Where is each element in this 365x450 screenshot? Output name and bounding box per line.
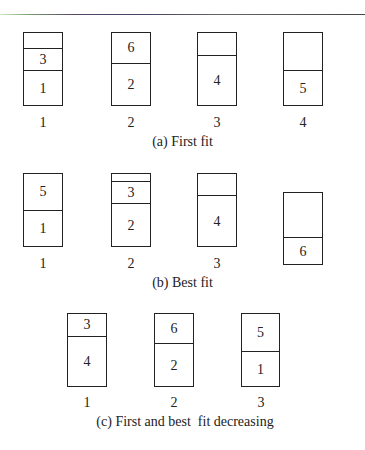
bin-segment: 6	[155, 314, 193, 343]
bin-b2: 3 2	[111, 173, 151, 247]
bin-label: 4	[283, 115, 323, 131]
bin-segment	[24, 33, 62, 48]
bin-segment	[284, 33, 322, 70]
bin-label: 3	[241, 395, 281, 411]
bin-segment: 5	[284, 70, 322, 106]
bin-segment: 1	[24, 210, 62, 247]
top-rule	[0, 14, 365, 15]
bin-b1: 5 1	[23, 173, 63, 247]
caption-fit-decreasing: (c) First and best fit decreasing	[60, 414, 310, 430]
bin-c2: 6 2	[154, 313, 194, 387]
bin-segment: 4	[68, 336, 106, 387]
bin-segment: 3	[68, 314, 106, 336]
bin-label: 2	[111, 115, 151, 131]
bin-segment: 1	[24, 70, 62, 106]
bin-a3: 4	[197, 32, 237, 106]
bin-segment	[198, 174, 236, 195]
bin-b4: 6	[283, 192, 323, 265]
bin-segment: 5	[242, 314, 279, 351]
bin-a2: 6 2	[111, 32, 151, 106]
bin-b3: 4	[197, 173, 237, 247]
bin-label: 2	[111, 256, 151, 272]
bin-segment: 4	[198, 55, 236, 106]
bin-segment: 3	[24, 48, 62, 70]
caption-best-fit: (b) Best fit	[100, 275, 265, 291]
bin-segment: 2	[112, 203, 150, 247]
bin-label: 3	[197, 115, 237, 131]
bin-c3: 5 1	[241, 313, 280, 387]
bin-segment: 1	[242, 351, 279, 387]
bin-segment: 5	[24, 174, 62, 210]
bin-c1: 3 4	[67, 313, 107, 387]
bin-a1: 3 1	[23, 32, 63, 106]
bin-label: 1	[67, 395, 107, 411]
bin-segment: 6	[112, 33, 150, 63]
bin-segment: 6	[284, 237, 322, 265]
bin-segment: 4	[198, 195, 236, 247]
bin-label: 2	[154, 395, 194, 411]
caption-first-fit: (a) First fit	[100, 134, 265, 150]
bin-segment	[198, 33, 236, 55]
bin-label: 1	[23, 256, 63, 272]
bin-segment	[112, 174, 150, 181]
bin-segment: 2	[155, 343, 193, 387]
bin-segment	[284, 193, 322, 237]
bin-segment: 2	[112, 63, 150, 106]
bin-label: 3	[197, 256, 237, 272]
bin-a4: 5	[283, 32, 323, 106]
bin-segment: 3	[112, 181, 150, 203]
bin-label: 1	[23, 115, 63, 131]
